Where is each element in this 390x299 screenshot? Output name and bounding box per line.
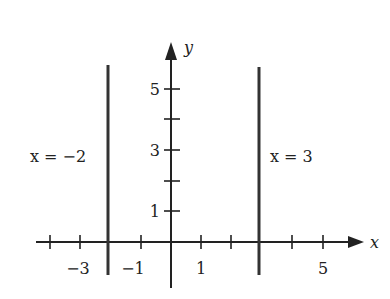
- graph-canvas: −3 −1 1 5 1 3 5 y x x = −2 x = 3: [0, 0, 390, 299]
- line-label-left: x = −2: [30, 147, 86, 166]
- x-tick-label: −1: [121, 259, 145, 278]
- line-label-right: x = 3: [270, 147, 313, 166]
- x-tick-label: −3: [66, 259, 90, 278]
- x-axis-arrow-icon: [348, 236, 364, 248]
- x-tick-label: 1: [196, 259, 206, 278]
- coordinate-plane: −3 −1 1 5 1 3 5 y x x = −2 x = 3: [0, 0, 390, 299]
- y-tick-label: 1: [150, 202, 160, 221]
- y-axis-label: y: [183, 38, 194, 57]
- x-tick-label: 5: [318, 259, 328, 278]
- y-tick-label: 3: [150, 141, 160, 160]
- y-tick-label: 5: [150, 80, 160, 99]
- x-axis-label: x: [370, 233, 379, 252]
- y-axis-arrow-icon: [165, 42, 177, 60]
